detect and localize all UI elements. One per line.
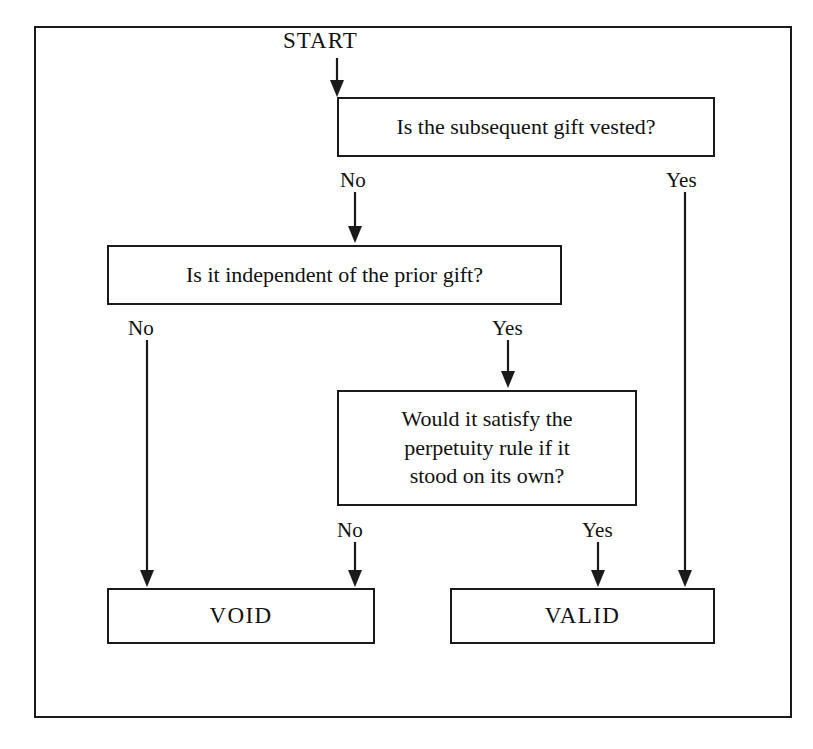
- decision-box-independent-of-prior-gift[interactable]: Is it independent of the prior gift?: [107, 245, 562, 305]
- flowchart-page: START: [0, 0, 813, 749]
- decision-box-3-line-1: Would it satisfy the: [401, 406, 572, 431]
- branch-label-q3-yes: Yes: [582, 518, 613, 543]
- decision-box-3-line-3: stood on its own?: [410, 463, 565, 488]
- branch-label-q2-no: No: [128, 316, 154, 341]
- decision-box-perpetuity-rule-on-its-own[interactable]: Would it satisfy the perpetuity rule if …: [337, 390, 637, 506]
- branch-label-q1-yes: Yes: [666, 168, 697, 193]
- branch-label-q2-yes: Yes: [492, 316, 523, 341]
- branch-label-q1-no: No: [340, 168, 366, 193]
- start-label: START: [283, 28, 358, 54]
- terminal-box-valid[interactable]: VALID: [450, 588, 715, 644]
- decision-box-3-text: Would it satisfy the perpetuity rule if …: [391, 405, 582, 491]
- decision-box-1-text: Is the subsequent gift vested?: [386, 114, 665, 141]
- terminal-box-void-text: VOID: [199, 602, 282, 630]
- terminal-box-void[interactable]: VOID: [107, 588, 375, 644]
- terminal-box-valid-text: VALID: [535, 602, 630, 630]
- decision-box-3-line-2: perpetuity rule if it: [404, 435, 570, 460]
- decision-box-2-text: Is it independent of the prior gift?: [176, 262, 493, 289]
- branch-label-q3-no: No: [337, 518, 363, 543]
- decision-box-subsequent-gift-vested[interactable]: Is the subsequent gift vested?: [337, 97, 715, 157]
